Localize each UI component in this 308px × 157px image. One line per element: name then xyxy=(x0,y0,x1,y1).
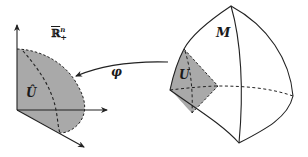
manifold-label: M xyxy=(216,26,230,39)
map-label: φ xyxy=(111,66,122,78)
u-region xyxy=(170,49,218,113)
phi-arrow xyxy=(76,62,168,76)
half-space-base: ℝ xyxy=(51,27,60,40)
chart-diagram: ℝn+ Û φ M U xyxy=(0,0,308,157)
half-space-label: ℝn+ xyxy=(51,28,72,39)
chart-image-label: Û xyxy=(26,87,36,99)
open-set-label: U xyxy=(179,69,189,81)
diagram-canvas xyxy=(0,0,308,157)
manifold-center-edge xyxy=(231,6,241,143)
half-space-subscript: + xyxy=(60,32,67,42)
